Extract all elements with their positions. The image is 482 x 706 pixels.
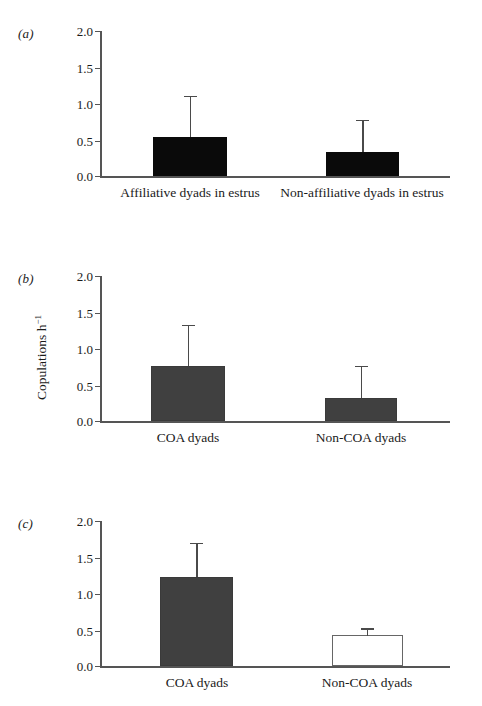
panel-c-x-axis <box>100 666 450 668</box>
y-axis-title-exponent: −1 <box>33 315 43 325</box>
panel-c-ytick-1 <box>95 594 102 595</box>
panel-c-errorcap-2 <box>361 628 374 630</box>
panel-b-category-label-1: COA dyads <box>157 431 220 445</box>
panel-b-ytick-label-1: 1.0 <box>77 343 93 356</box>
panel-a-plot-area: 2.0 1.5 1.0 0.5 0.0 Affiliative dyads in… <box>100 31 450 177</box>
panel-b-errorcap-1 <box>182 325 195 327</box>
panel-a-ytick-1 <box>95 104 102 105</box>
panel-a-category-label-1: Affiliative dyads in estrus <box>120 186 260 200</box>
panel-c-label: (c) <box>18 516 33 532</box>
y-axis-title: Copulations h−1 <box>34 298 49 418</box>
panel-b-ytick-0.5 <box>95 386 102 387</box>
panel-c-category-label-2: Non-COA dyads <box>322 676 412 690</box>
panel-a-errorbar-2 <box>362 120 364 152</box>
panel-b-ytick-label-2: 2.0 <box>77 270 93 283</box>
panel-c-errorbar-1 <box>196 543 198 577</box>
y-axis-title-text: Copulations h <box>34 325 49 400</box>
panel-b-category-label-2: Non-COA dyads <box>316 431 406 445</box>
panel-c-ytick-2 <box>95 521 102 522</box>
panel-c-ytick-0 <box>95 666 102 667</box>
panel-c-ytick-0.5 <box>95 631 102 632</box>
panel-a-ytick-0.5 <box>95 141 102 142</box>
panel-b-ytick-1.5 <box>95 313 102 314</box>
panel-b-ytick-2 <box>95 276 102 277</box>
panel-c-plot-area: 2.0 1.5 1.0 0.5 0.0 COA dyads Non-COA dy… <box>100 521 450 667</box>
panel-c-ytick-label-2: 2.0 <box>77 515 93 528</box>
panel-c-ytick-label-0: 0.0 <box>77 660 93 673</box>
panel-c-bar-1 <box>160 577 233 666</box>
panel-a-ytick-label-0.5: 0.5 <box>77 134 93 147</box>
panel-a-errorcap-2 <box>356 120 369 122</box>
panel-b-ytick-label-0.5: 0.5 <box>77 379 93 392</box>
panel-c-ytick-label-1: 1.0 <box>77 588 93 601</box>
panel-a: (a) 2.0 1.5 1.0 0.5 0.0 Affiliativ <box>0 0 482 240</box>
panel-b-bar-2 <box>325 398 397 421</box>
panel-a-errorcap-1 <box>184 96 197 98</box>
panel-a-bar-1 <box>153 137 227 176</box>
panel-a-errorbar-1 <box>190 96 192 138</box>
panel-c: (c) 2.0 1.5 1.0 0.5 0.0 COA dyads Non-CO… <box>0 490 482 706</box>
panel-a-ytick-1.5 <box>95 68 102 69</box>
panel-a-ytick-label-2: 2.0 <box>77 25 93 38</box>
panel-a-category-label-2: Non-affiliative dyads in estrus <box>280 186 444 200</box>
panel-b-errorbar-1 <box>188 325 190 366</box>
panel-c-errorcap-1 <box>190 543 203 545</box>
panel-a-bar-2 <box>326 152 399 176</box>
panel-b-errorcap-2 <box>355 366 368 368</box>
panel-a-x-axis <box>100 176 450 178</box>
panel-c-category-label-1: COA dyads <box>166 676 229 690</box>
figure-root: (a) 2.0 1.5 1.0 0.5 0.0 Affiliativ <box>0 0 482 706</box>
panel-b-ytick-1 <box>95 349 102 350</box>
panel-b-ytick-label-0: 0.0 <box>77 415 93 428</box>
panel-a-ytick-0 <box>95 176 102 177</box>
panel-a-ytick-2 <box>95 31 102 32</box>
panel-c-ytick-label-0.5: 0.5 <box>77 624 93 637</box>
panel-a-ytick-label-1.5: 1.5 <box>77 61 93 74</box>
panel-b-x-axis <box>100 421 450 423</box>
panel-b-bar-1 <box>151 366 225 421</box>
panel-a-ytick-label-1: 1.0 <box>77 98 93 111</box>
panel-b: (b) Copulations h−1 2.0 1.5 1.0 0.5 0.0 <box>0 245 482 480</box>
panel-b-ytick-label-1.5: 1.5 <box>77 306 93 319</box>
panel-b-ytick-0 <box>95 421 102 422</box>
panel-c-ytick-1.5 <box>95 558 102 559</box>
panel-b-label: (b) <box>18 271 34 287</box>
panel-c-ytick-label-1.5: 1.5 <box>77 551 93 564</box>
panel-b-plot-area: 2.0 1.5 1.0 0.5 0.0 COA dyads Non-COA dy… <box>100 276 450 422</box>
panel-a-ytick-label-0: 0.0 <box>77 170 93 183</box>
panel-b-errorbar-2 <box>361 366 363 399</box>
panel-a-label: (a) <box>18 26 34 42</box>
panel-c-bar-2 <box>332 635 403 666</box>
